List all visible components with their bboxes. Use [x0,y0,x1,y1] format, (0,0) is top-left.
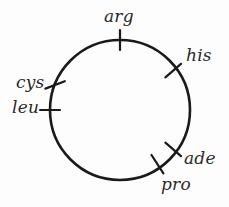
marker-label-pro: pro [161,176,191,193]
marker-label-cys: cys [16,74,44,91]
chromosome-circle [50,40,190,180]
marker-label-ade: ade [184,150,216,167]
circular-genetic-map-figure: arg his ade pro leu cys [0,0,229,207]
marker-label-his: his [186,47,212,64]
marker-label-arg: arg [104,8,134,25]
marker-label-leu: leu [12,99,39,116]
